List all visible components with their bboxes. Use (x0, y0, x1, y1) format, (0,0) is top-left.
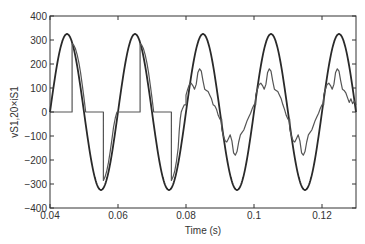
y-tick-label: −200 (24, 155, 47, 166)
y-axis-label: vS1,20×iS1 (9, 86, 20, 138)
y-tick-label: −300 (24, 179, 47, 190)
y-axis-ticks: 4003002001000−100−200−300−400 (24, 11, 356, 214)
series-line-current (50, 44, 356, 181)
x-tick-label: 0.12 (312, 210, 332, 221)
y-tick-label: 0 (41, 107, 47, 118)
plot-series (50, 34, 356, 190)
y-tick-label: 100 (30, 83, 47, 94)
x-tick-label: 0.06 (108, 210, 128, 221)
y-tick-label: −400 (24, 203, 47, 214)
x-axis-label: Time (s) (185, 225, 221, 236)
y-tick-label: −100 (24, 131, 47, 142)
y-tick-label: 200 (30, 59, 47, 70)
x-tick-label: 0.1 (247, 210, 261, 221)
x-tick-label: 0.08 (176, 210, 196, 221)
line-chart: 0.040.060.080.10.12 4003002001000−100−20… (0, 0, 365, 244)
y-tick-label: 400 (30, 11, 47, 22)
y-tick-label: 300 (30, 35, 47, 46)
